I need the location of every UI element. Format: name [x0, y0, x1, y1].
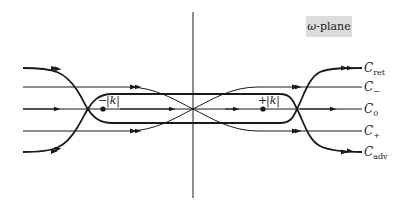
label-c-plus: C+	[364, 124, 380, 140]
label-c-0: C0	[364, 102, 378, 118]
label-c-minus: C−	[364, 80, 380, 96]
pole-plus-label: |k|	[266, 94, 280, 108]
pole-minus-label: |k|	[106, 94, 120, 108]
label-c-adv: Cadv	[364, 145, 388, 161]
contour-diagram: − |k| + |k| Cret C− C0 C+ Cadv	[0, 0, 402, 211]
direction-arrows	[51, 66, 348, 155]
label-c-ret: Cret	[364, 61, 386, 77]
